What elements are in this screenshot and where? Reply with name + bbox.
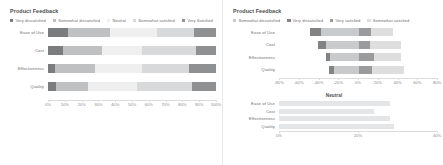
bar-segment[interactable] (192, 82, 216, 91)
axis-tick-label: 0% (276, 133, 282, 138)
bar-track (279, 53, 437, 61)
bar-segment[interactable] (334, 66, 358, 74)
axis-tick-label: -60% (294, 80, 304, 85)
bar-segment[interactable] (358, 66, 372, 74)
category-label: Effectiveness (231, 116, 279, 121)
category-label: Cost (231, 109, 279, 114)
bar-segment[interactable] (321, 28, 358, 36)
legend-item[interactable]: Very satisfied (330, 18, 360, 23)
axis-tick-label: -80% (274, 80, 284, 85)
legend-item[interactable]: Very dissatisfied (287, 18, 323, 23)
axis-tick-label: 60% (413, 80, 421, 85)
legend-item[interactable]: Somewhat satisfied (133, 18, 175, 23)
category-label: Quality (231, 124, 279, 129)
bar-segment[interactable] (110, 28, 157, 37)
zero-reference-line (358, 66, 359, 74)
bar-segment[interactable] (95, 64, 142, 73)
legend-item-label: Somewhat satisfied (138, 18, 174, 23)
bar-row: Quality (231, 66, 437, 74)
legend-left: Very dissatisfiedSomewhat dissatisfiedNe… (10, 18, 216, 23)
bar-segment[interactable] (55, 64, 95, 73)
bar-segment[interactable] (48, 28, 68, 37)
category-label: Ease of Use (231, 101, 279, 106)
bar-segment[interactable] (279, 101, 390, 106)
bar-segment[interactable] (330, 53, 358, 61)
bar-segment[interactable] (279, 109, 374, 114)
legend-swatch-icon (182, 19, 185, 22)
bar-rows-right: Ease of UseCostEffectivenessQuality (231, 28, 437, 74)
legend-swatch-icon (330, 19, 333, 22)
bar-segment[interactable] (48, 46, 63, 55)
legend-item-label: Very Satisfied (187, 18, 213, 23)
bar-segment[interactable] (48, 64, 55, 73)
bar-segment[interactable] (370, 41, 402, 49)
bar-track (279, 109, 437, 114)
plot-area-left: Ease of UseCostEffectivenessQuality 0%10… (8, 28, 216, 109)
bar-segment[interactable] (189, 64, 216, 73)
bar-segment[interactable] (374, 53, 402, 61)
axis-tick-label: -40% (314, 80, 324, 85)
legend-item[interactable]: Somewhat dissatisfied (233, 18, 280, 23)
page-title: Product Feedback (10, 8, 216, 14)
bar-segment[interactable] (63, 46, 102, 55)
axis-tick-label: 20% (374, 80, 382, 85)
legend-item[interactable]: Very Satisfied (182, 18, 213, 23)
bar-segment[interactable] (279, 116, 390, 121)
zero-reference-line (358, 53, 359, 61)
bar-segment[interactable] (142, 64, 189, 73)
legend-item[interactable]: Neutral (107, 18, 126, 23)
legend-item-label: Very dissatisfied (293, 18, 323, 23)
legend-item[interactable]: Very dissatisfied (10, 18, 46, 23)
bar-segment[interactable] (102, 46, 142, 55)
bar-segment[interactable] (56, 82, 88, 91)
category-label: Quality (231, 67, 279, 72)
legend-item-label: Somewhat dissatisfied (58, 18, 100, 23)
bar-segment[interactable] (137, 82, 192, 91)
bar-segment[interactable] (196, 46, 216, 55)
bar-segment[interactable] (372, 66, 405, 74)
axis-tick-label: 10% (61, 102, 69, 107)
category-label: Effectiveness (8, 66, 48, 71)
legend-item[interactable]: Somewhat dissatisfied (53, 18, 100, 23)
bar-segment[interactable] (48, 82, 56, 91)
bar-track (48, 64, 216, 73)
legend-item[interactable]: Somewhat satisfied (367, 18, 409, 23)
legend-swatch-icon (53, 19, 56, 22)
bar-segment[interactable] (326, 41, 358, 49)
zero-reference-line (358, 28, 359, 36)
plot-area-neutral: Ease of UseCostEffectivenessQuality 0%20… (231, 101, 437, 140)
x-axis-left: 0%10%20%30%40%50%60%70%80%90%100% (44, 100, 216, 109)
bar-segment[interactable] (194, 28, 216, 37)
bar-segment[interactable] (142, 46, 196, 55)
bar-segment[interactable] (157, 28, 194, 37)
category-label: Ease of Use (8, 30, 48, 35)
bar-track (279, 66, 437, 74)
bar-segment[interactable] (310, 28, 322, 36)
bar-segment[interactable] (329, 66, 334, 74)
bar-rows-neutral: Ease of UseCostEffectivenessQuality (231, 101, 437, 129)
bar-segment[interactable] (371, 28, 393, 36)
category-label: Cost (8, 48, 48, 53)
axis-tick-label: 70% (161, 102, 169, 107)
category-label: Effectiveness (231, 55, 279, 60)
axis-tick-label: 20% (354, 133, 362, 138)
axis-tick-label: 90% (195, 102, 203, 107)
axis-tick-label: 80% (178, 102, 186, 107)
legend-swatch-icon (367, 19, 370, 22)
bar-segment[interactable] (358, 53, 374, 61)
bar-segment[interactable] (68, 28, 110, 37)
bar-segment[interactable] (318, 41, 327, 49)
diverging-likert-panel: Product Feedback Somewhat dissatisfiedVe… (222, 0, 443, 165)
bar-track (279, 41, 437, 49)
axis-tick-label: 100% (211, 102, 221, 107)
bar-segment[interactable] (279, 124, 394, 129)
bar-row: Cost (231, 41, 437, 49)
bar-segment[interactable] (358, 41, 370, 49)
axis-tick-label: 40% (393, 80, 401, 85)
page-title-right: Product Feedback (233, 8, 437, 14)
bar-track (48, 28, 216, 37)
bar-row: Cost (231, 109, 437, 114)
bar-segment[interactable] (88, 82, 137, 91)
bar-segment[interactable] (326, 53, 330, 61)
bar-segment[interactable] (358, 28, 371, 36)
